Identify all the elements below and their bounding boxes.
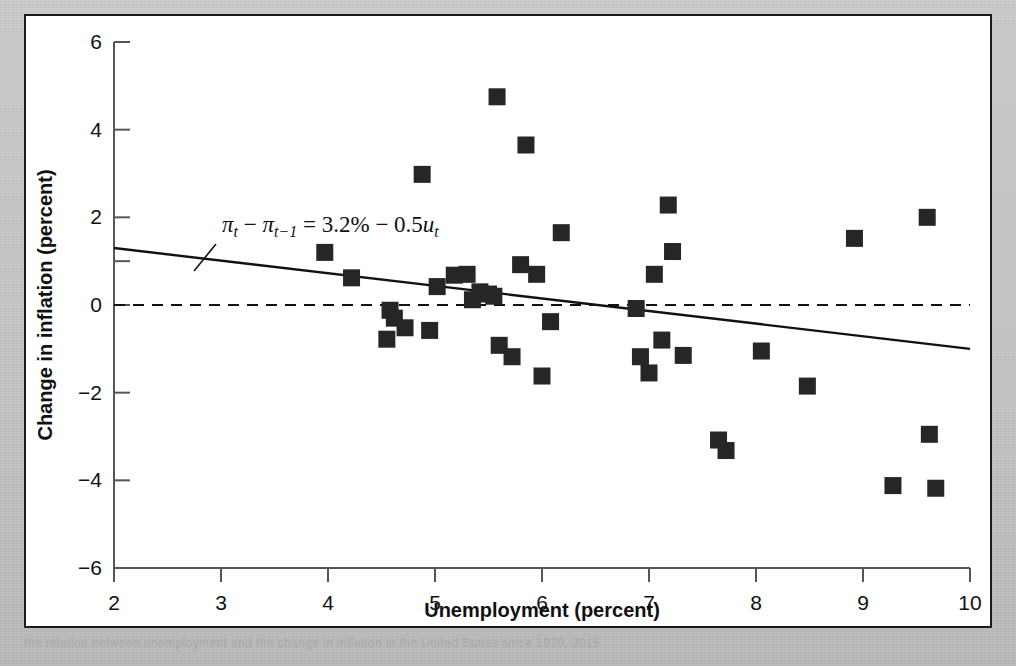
data-point xyxy=(553,224,570,241)
data-point xyxy=(504,348,521,365)
data-point xyxy=(534,368,551,385)
x-tick-label: 9 xyxy=(857,591,869,614)
data-point xyxy=(512,256,529,273)
data-point xyxy=(646,266,663,283)
data-point xyxy=(628,300,645,317)
y-tick-label: 4 xyxy=(90,118,102,141)
y-tick-label: −2 xyxy=(78,381,102,404)
data-point xyxy=(343,269,360,286)
figure-card: −6−4−20246 2345678910 πt − πt−1 = 3.2% −… xyxy=(24,14,992,628)
data-point xyxy=(316,244,333,261)
fit-line xyxy=(114,248,970,349)
y-tick-label: 0 xyxy=(90,293,102,316)
data-point xyxy=(429,278,446,295)
data-point xyxy=(675,347,692,364)
eq-pi-t1-sub: t−1 xyxy=(274,223,297,240)
x-tick-label: 2 xyxy=(108,591,120,614)
data-point xyxy=(528,266,545,283)
data-point xyxy=(846,230,863,247)
figure-caption: the relation between unemployment and th… xyxy=(24,636,992,656)
y-tick-label: 6 xyxy=(90,30,102,53)
data-point xyxy=(517,137,534,154)
data-point xyxy=(378,331,395,348)
x-tick-label: 4 xyxy=(322,591,334,614)
data-point xyxy=(485,288,502,305)
x-axis-title: Unemployment (percent) xyxy=(424,599,660,621)
plot-area: −6−4−20246 2345678910 πt − πt−1 = 3.2% −… xyxy=(26,16,990,626)
fit-equation-annotation: πt − πt−1 = 3.2% − 0.5ut xyxy=(222,212,439,240)
x-tick-label: 8 xyxy=(750,591,762,614)
data-point xyxy=(653,332,670,349)
data-point xyxy=(718,442,735,459)
y-tick-label: −6 xyxy=(78,556,102,579)
data-point xyxy=(884,477,901,494)
eq-u-sub: t xyxy=(434,223,439,240)
x-tick-label: 3 xyxy=(215,591,227,614)
eq-u: u xyxy=(423,212,435,237)
y-tick-label: −4 xyxy=(78,468,102,491)
data-point xyxy=(664,243,681,260)
data-points xyxy=(316,88,944,496)
data-point xyxy=(414,166,431,183)
y-tick-label: 2 xyxy=(90,205,102,228)
data-point xyxy=(753,343,770,360)
scatter-chart: −6−4−20246 2345678910 πt − πt−1 = 3.2% −… xyxy=(26,16,990,626)
data-point xyxy=(421,322,438,339)
data-point xyxy=(542,313,559,330)
x-tick-label: 10 xyxy=(958,591,981,614)
data-point xyxy=(921,426,938,443)
y-axis-title: Change in inflation (percent) xyxy=(34,169,56,440)
data-point xyxy=(927,480,944,497)
data-point xyxy=(799,378,816,395)
data-point xyxy=(632,348,649,365)
data-point xyxy=(397,319,414,336)
data-point xyxy=(660,197,677,214)
data-point xyxy=(919,209,936,226)
data-point xyxy=(489,88,506,105)
data-point xyxy=(641,364,658,381)
data-point xyxy=(459,266,476,283)
